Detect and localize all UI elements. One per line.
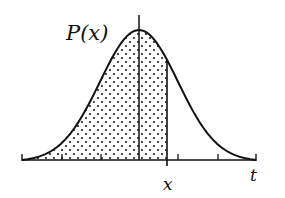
cumulative-normal-diagram: P(x) x t [0,0,285,198]
t-axis-label: t [250,165,257,185]
function-label: P(x) [65,21,108,45]
x-label: x [163,174,173,194]
